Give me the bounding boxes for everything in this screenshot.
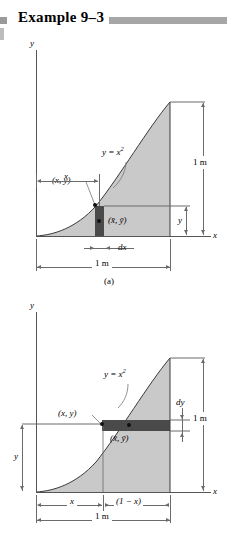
figure-b-dim-x-arrow-right — [98, 503, 102, 507]
figure-a-dim-x-arrow-right — [94, 179, 98, 183]
figure-a-dim-base-arrow-left — [37, 265, 41, 269]
figure-b-point-label: (x, y) — [58, 409, 76, 418]
figure-b-dim-x-ext-mid — [103, 495, 104, 511]
figure-a-dim-x-ext-right — [99, 174, 100, 206]
figure-b-dim-height-arrow-bottom — [201, 486, 205, 490]
curve-label-leader — [118, 384, 128, 408]
figure-a-x-axis-label: x — [213, 231, 217, 240]
figure-b-dim-1mx-ext-right — [170, 495, 171, 523]
figure-a-point-dot — [93, 203, 97, 207]
figure-b-point-dot — [100, 422, 104, 426]
figure-a-dim-x-line — [38, 181, 98, 182]
figure-a-centroid-label: (x̄, ȳ) — [108, 216, 126, 225]
figure-b-dim-y-label: y — [14, 452, 18, 461]
figure-a-y-axis — [36, 50, 37, 236]
figure-a-dim-dx-arrow-right — [106, 246, 110, 250]
figure-b-dim-y-arrow-bottom — [20, 486, 24, 490]
figure-b-dim-x-arrow-left — [37, 503, 41, 507]
figure-b-dim-base-label: 1 m — [92, 512, 112, 521]
figure-b-dim-1mx-arrow-left — [105, 503, 109, 507]
figure-b-dim-1mx-arrow-right — [165, 503, 169, 507]
figure-b-dim-y-line — [22, 425, 23, 491]
dim-1mx-text: (1 − x) — [116, 496, 141, 506]
figure-a-dim-height-arrow-top — [201, 103, 205, 107]
figure-b-dim-height-arrow-top — [201, 359, 205, 363]
figure-a-dim-dx-label: dx — [118, 243, 127, 252]
figure-b-x-axis-label: x — [213, 487, 217, 496]
figure-a-dim-height-line — [203, 103, 204, 235]
figure-a-dim-y-arrow-bottom — [184, 230, 188, 234]
curve-label-exponent: 2 — [121, 145, 124, 152]
figure-b-dim-base-arrow-right — [166, 518, 170, 522]
figure-a-dim-height-label: 1 m — [192, 156, 208, 169]
figure-b-dim-dy-label: dy — [176, 398, 185, 407]
differential-strip-dy — [102, 420, 170, 431]
curve-label-exponent: 2 — [123, 367, 126, 374]
figure-a-y-axis-label: y — [30, 39, 34, 48]
curve-label-text: y = x — [104, 369, 123, 379]
page-title: Example 9–3 — [18, 9, 104, 26]
figure-a-x-axis — [36, 236, 211, 237]
figure-a: y x y = x2 (x, y) (x̄, ȳ) x dx 1 m 1 m … — [0, 36, 227, 286]
figure-a-dim-x-label: x — [64, 172, 68, 181]
figure-b-dim-base-arrow-left — [37, 518, 41, 522]
figure-b-centroid-label: (x̄, ȳ) — [110, 434, 128, 443]
figure-b-dim-y-arrow-top — [20, 425, 24, 429]
dim-base-text: 1 m — [95, 511, 109, 521]
figure-a-curve-label: y = x2 — [102, 146, 124, 157]
figure-b-dim-dy-arrow-bottom — [180, 433, 184, 437]
figure-b-y-axis-label: y — [30, 301, 34, 310]
figure-b-curve-label: y = x2 — [104, 368, 126, 379]
figure-b-dim-x-label: x — [67, 497, 77, 506]
title-rule — [109, 17, 227, 24]
figure-b-dim-height-line — [203, 359, 204, 491]
figure-a-dim-height-arrow-bottom — [201, 230, 205, 234]
figure-b-y-axis — [36, 312, 37, 492]
figure-a-dim-base-arrow-right — [166, 265, 170, 269]
dim-base-text: 1 m — [95, 258, 109, 268]
figure-a-dim-base-label: 1 m — [92, 259, 112, 268]
point-leader-line — [86, 182, 95, 205]
figure-b-centroid-dot — [127, 423, 131, 427]
dim-height-text: 1 m — [193, 413, 207, 423]
figure-b-dim-height-label: 1 m — [192, 412, 208, 425]
figure-b-dim-dy-arrow-top — [180, 415, 184, 419]
figure-a-dim-x-arrow-left — [37, 179, 41, 183]
figure-a-dim-dx-arrow-left — [90, 246, 94, 250]
example-header: Example 9–3 — [0, 0, 227, 36]
figure-a-dim-base-ext-right — [170, 239, 171, 271]
figure-b-dim-1mx-label: (1 − x) — [114, 497, 143, 506]
figure-a-dim-y-arrow-top — [184, 207, 188, 211]
figure-b: y x y = x2 (x, y) (x̄, ȳ) dy 1 m y x (1… — [0, 296, 227, 534]
margin-marker-top — [0, 17, 7, 24]
figure-a-caption: (a) — [104, 276, 114, 286]
dim-height-text: 1 m — [193, 157, 207, 167]
curve-label-text: y = x — [102, 147, 121, 157]
figure-b-x-axis — [36, 492, 211, 493]
figure-a-dim-y-label: y — [178, 216, 182, 225]
figure-a-centroid-dot — [97, 219, 101, 223]
